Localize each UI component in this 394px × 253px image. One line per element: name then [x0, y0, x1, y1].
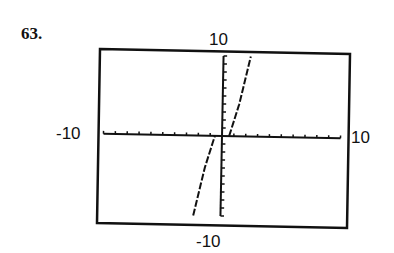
axes	[104, 56, 341, 216]
graph-screen	[0, 0, 394, 253]
